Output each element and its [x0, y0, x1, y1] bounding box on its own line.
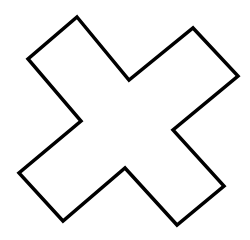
- x-cross-icon: [0, 0, 250, 240]
- x-cross-outline: [19, 17, 238, 225]
- figure-canvas: [0, 0, 250, 240]
